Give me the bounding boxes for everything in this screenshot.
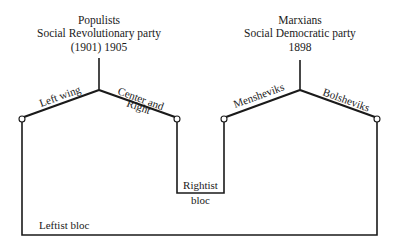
party-split-diagram: Populists Social Revolutionary party (19… [0,0,397,251]
left-party-years: (1901) 1905 [71,41,128,54]
right-party-group: Marxians [278,14,322,26]
rightist-bloc-label-line1: Rightist [183,179,218,191]
right-party-years: 1898 [289,41,312,53]
left-party-name: Social Revolutionary party [37,27,161,40]
mensheviks-node [221,116,227,122]
rightist-bloc-label-line2: bloc [191,194,210,206]
left-wing-node [19,116,25,122]
bolsheviks-node [374,116,380,122]
left-party-group: Populists [78,14,121,27]
leftist-bloc-label: Leftist bloc [39,219,90,231]
right-party-name: Social Democratic party [244,27,356,40]
bolsheviks-label: Bolsheviks [321,86,371,114]
center-right-node [174,116,180,122]
